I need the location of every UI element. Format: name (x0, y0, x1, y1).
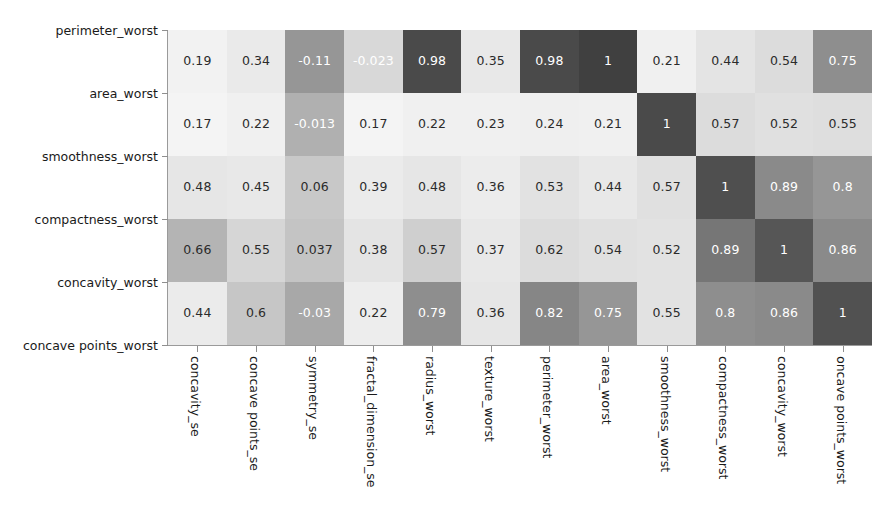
heatmap-cell-value: 0.82 (535, 307, 563, 320)
heatmap-cell-value: 0.22 (418, 118, 446, 131)
heatmap-cell-value: 0.55 (653, 307, 681, 320)
heatmap-cell-value: 0.44 (183, 307, 211, 320)
x-axis-tick-label: concave points_se (247, 356, 262, 471)
heatmap-cell-value: 0.52 (770, 118, 798, 131)
heatmap-cell-value: 0.06 (301, 181, 329, 194)
x-axis-tick-mark (608, 346, 609, 352)
heatmap-cell-value: 0.57 (711, 118, 739, 131)
x-axis-tick-label: concavity_se (188, 356, 203, 437)
heatmap-cell-value: 1 (663, 118, 671, 131)
x-axis-tick-mark (197, 346, 198, 352)
heatmap-cell-value: 1 (780, 244, 788, 257)
heatmap-cell-value: 0.86 (829, 244, 857, 257)
heatmap-cell-value: 0.89 (770, 181, 798, 194)
heatmap-cell-value: 0.57 (418, 244, 446, 257)
heatmap-cell-value: -0.023 (353, 55, 394, 68)
heatmap-cell-value: 0.62 (535, 244, 563, 257)
heatmap-cell-value: 0.45 (242, 181, 270, 194)
heatmap-cell-value: 0.55 (242, 244, 270, 257)
x-axis-tick-mark (549, 346, 550, 352)
heatmap-cell-value: 0.98 (418, 55, 446, 68)
x-axis-tick-mark (491, 346, 492, 352)
heatmap-cell-value: 0.39 (359, 181, 387, 194)
heatmap-cell-value: 0.34 (242, 55, 270, 68)
heatmap-cell-value: 0.35 (477, 55, 505, 68)
x-axis-tick-label: concavity_worst (775, 356, 790, 457)
x-axis-tick-mark (784, 346, 785, 352)
x-axis-tick-label: perimeter_worst (540, 356, 555, 459)
heatmap-cell-value: 0.8 (833, 181, 853, 194)
heatmap-cell-value: 1 (721, 181, 729, 194)
x-axis-tick-label: oncave points_worst (834, 356, 849, 484)
x-axis-tick-mark (256, 346, 257, 352)
heatmap-cell-value: 0.48 (183, 181, 211, 194)
heatmap-cell-value: 0.52 (653, 244, 681, 257)
heatmap-cell-value: 0.6 (246, 307, 266, 320)
heatmap-cell-value: 0.79 (418, 307, 446, 320)
heatmap-cell-value: 1 (839, 307, 847, 320)
heatmap-cell-value: 0.98 (535, 55, 563, 68)
x-axis-tick-label: compactness_worst (716, 356, 731, 479)
x-axis-tick-label: texture_worst (482, 356, 497, 442)
heatmap-cell-value: 1 (604, 55, 612, 68)
heatmap-cell-value: 0.44 (711, 55, 739, 68)
heatmap-cell-value: 0.86 (770, 307, 798, 320)
x-axis-tick-mark (373, 346, 374, 352)
heatmap-cell-value: 0.8 (715, 307, 735, 320)
x-axis-tick-mark (843, 346, 844, 352)
x-axis-tick-mark (315, 346, 316, 352)
x-axis-tick-label: smoothness_worst (658, 356, 673, 472)
heatmap-cell-value: 0.48 (418, 181, 446, 194)
heatmap-cell-value: 0.53 (535, 181, 563, 194)
heatmap-cell-value: 0.54 (594, 244, 622, 257)
x-axis-tick-label: area_worst (599, 356, 614, 425)
heatmap-cell-value: 0.19 (183, 55, 211, 68)
heatmap-cell-value: 0.23 (477, 118, 505, 131)
heatmap-cell-value: 0.22 (242, 118, 270, 131)
heatmap-cell-value: 0.24 (535, 118, 563, 131)
x-axis-tick-label: symmetry_se (306, 356, 321, 440)
correlation-heatmap-figure: 0.190.34-0.11-0.0230.980.350.9810.210.44… (0, 0, 886, 507)
heatmap-cell-value: -0.03 (298, 307, 331, 320)
heatmap-cell-value: 0.22 (359, 307, 387, 320)
heatmap-cell-value: 0.89 (711, 244, 739, 257)
heatmap-cell-value: 0.75 (594, 307, 622, 320)
heatmap-cell-value: 0.54 (770, 55, 798, 68)
x-axis-tick-mark (725, 346, 726, 352)
heatmap-cell-value: 0.21 (594, 118, 622, 131)
heatmap-cell-value: 0.36 (477, 181, 505, 194)
heatmap-cell-value: 0.21 (653, 55, 681, 68)
heatmap-cell-value: -0.11 (298, 55, 331, 68)
heatmap-cell-value: 0.55 (829, 118, 857, 131)
heatmap-cell-value: 0.57 (653, 181, 681, 194)
x-axis-tick-mark (667, 346, 668, 352)
heatmap-cell-value: 0.38 (359, 244, 387, 257)
heatmap-cell-value: 0.037 (297, 244, 333, 257)
x-axis-tick-mark (432, 346, 433, 352)
heatmap-cell-value: 0.37 (477, 244, 505, 257)
heatmap-cell-value: 0.17 (183, 118, 211, 131)
x-axis-tick-label: fractal_dimension_se (364, 356, 379, 488)
heatmap-cell-value: 0.75 (829, 55, 857, 68)
heatmap-cell-value: 0.44 (594, 181, 622, 194)
heatmap-cell-value: 0.17 (359, 118, 387, 131)
x-axis-tick-label: radius_worst (423, 356, 438, 435)
heatmap-cell-value: -0.013 (294, 118, 335, 131)
heatmap-cell-value: 0.66 (183, 244, 211, 257)
heatmap-cell-value: 0.36 (477, 307, 505, 320)
